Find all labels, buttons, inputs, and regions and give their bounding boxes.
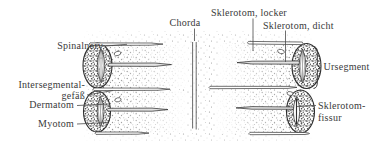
lower-vessel-rod — [249, 132, 310, 134]
label-spinalnerv: Spinalnerv — [57, 40, 103, 51]
somite-upper-right — [218, 41, 321, 88]
dense-sclerotome-plate — [107, 108, 168, 111]
lower-vessel-rod — [95, 132, 149, 134]
somite-lower-left — [84, 88, 187, 134]
label-chorda: Chorda — [170, 17, 201, 28]
somite-diagram: Chorda Sklerotom, locker Sklerotom, dich… — [0, 0, 375, 144]
somite-diagram-canvas: Chorda Sklerotom, locker Sklerotom, dich… — [0, 0, 375, 144]
intersegmental-vessel-rod — [209, 86, 297, 88]
label-ursegment: Ursegment — [324, 61, 370, 72]
dermatome-ring — [292, 44, 321, 89]
spinal-nerve-rod — [248, 41, 304, 44]
label-myotom: Myotom — [38, 118, 74, 129]
somite-lower-right — [209, 86, 315, 134]
label-dermatom: Dermatom — [29, 99, 74, 110]
label-sklerotomfissur-line2: fissur — [318, 112, 342, 123]
dense-sclerotome-plate — [108, 63, 172, 66]
dense-sclerotome-plate — [237, 61, 300, 64]
lens-dot — [101, 58, 102, 59]
dermatome-ring — [287, 90, 315, 133]
label-intersegmental-line1: Intersegmental- — [19, 79, 86, 90]
label-sklerotomfissur-line1: Sklerotom- — [318, 100, 366, 111]
label-sklerotom-locker: Sklerotom, locker — [211, 7, 287, 18]
label-sklerotom-dicht: Sklerotom, dicht — [263, 20, 334, 31]
dense-sclerotome-plate — [236, 107, 294, 110]
lens-dot — [99, 69, 100, 70]
intersegmental-vessel-rod — [93, 88, 170, 91]
